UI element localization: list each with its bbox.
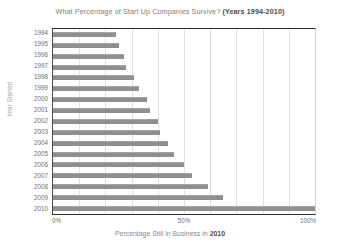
x-tick-label-50: 50%: [178, 217, 191, 224]
bar-row: [53, 160, 315, 171]
bar-chart-figure: What Percentage of Start Up Companies Su…: [0, 0, 340, 247]
y-tick-label: 2002: [16, 116, 50, 127]
bar-row: [53, 40, 315, 51]
bar-row: [53, 116, 315, 127]
plot-area: [52, 28, 316, 215]
bar: [53, 65, 126, 70]
y-tick-label: 2003: [16, 127, 50, 138]
y-tick-label: 1998: [16, 72, 50, 83]
bar-row: [53, 203, 315, 214]
bar-row: [53, 192, 315, 203]
bar-row: [53, 170, 315, 181]
y-tick-label: 2009: [16, 193, 50, 204]
bar: [53, 86, 139, 91]
bar: [53, 141, 168, 146]
y-tick-label: 1999: [16, 83, 50, 94]
bar-row: [53, 29, 315, 40]
y-tick-label: 2006: [16, 160, 50, 171]
bar-series: [53, 29, 315, 214]
x-tick-label-100: 100%: [300, 217, 316, 224]
bar-row: [53, 138, 315, 149]
bar: [53, 119, 158, 124]
x-tick-label-0: 0%: [52, 217, 61, 224]
y-tick-label: 2007: [16, 171, 50, 182]
x-axis-title-year: 2010: [210, 230, 225, 237]
y-tick-label: 1994: [16, 28, 50, 39]
x-axis-title: Percentage Still in Business in 2010: [0, 230, 340, 237]
bar: [53, 162, 184, 167]
x-axis-tick-labels: 0% 50% 100%: [52, 217, 316, 227]
bar-row: [53, 105, 315, 116]
bar-row: [53, 149, 315, 160]
y-tick-label: 2001: [16, 105, 50, 116]
bar-row: [53, 51, 315, 62]
bar: [53, 206, 315, 211]
bar-row: [53, 181, 315, 192]
chart-title: What Percentage of Start Up Companies Su…: [0, 7, 340, 16]
bar: [53, 32, 116, 37]
bar: [53, 152, 174, 157]
bar-row: [53, 127, 315, 138]
y-tick-label: 2005: [16, 149, 50, 160]
y-axis-title: Year Started: [6, 65, 13, 135]
y-tick-label: 2000: [16, 94, 50, 105]
bar: [53, 97, 147, 102]
y-tick-label: 1995: [16, 39, 50, 50]
bar: [53, 54, 124, 59]
chart-title-years: (Years 1994-2010): [222, 7, 284, 16]
x-axis-title-main: Percentage Still in Business in: [115, 230, 208, 237]
bar: [53, 195, 223, 200]
bar-row: [53, 73, 315, 84]
y-tick-label: 2010: [16, 204, 50, 215]
bar: [53, 75, 134, 80]
bar: [53, 184, 208, 189]
y-tick-label: 1996: [16, 50, 50, 61]
bar-row: [53, 62, 315, 73]
y-tick-label: 2004: [16, 138, 50, 149]
y-tick-label: 1997: [16, 61, 50, 72]
y-axis-tick-labels: 1994199519961997199819992000200120022003…: [16, 28, 50, 215]
bar: [53, 43, 119, 48]
chart-title-main: What Percentage of Start Up Companies Su…: [56, 7, 221, 16]
bar-row: [53, 94, 315, 105]
bar: [53, 108, 150, 113]
bar: [53, 173, 192, 178]
bar: [53, 130, 160, 135]
y-tick-label: 2008: [16, 182, 50, 193]
bar-row: [53, 83, 315, 94]
